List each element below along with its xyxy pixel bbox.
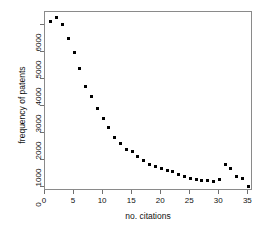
scatter-chart: 05101520253035 0100020003000400050006000… [0,0,268,238]
data-point [224,163,227,166]
x-tick [131,190,132,194]
data-point [119,142,122,145]
data-point [67,37,70,40]
data-point [235,175,238,178]
data-point [131,150,134,153]
data-point [102,117,105,120]
data-point [49,20,52,23]
y-tick-label: 6000 [34,24,43,62]
data-point [177,173,180,176]
data-point [90,95,93,98]
data-point [113,136,116,139]
data-point [200,179,203,182]
x-tick [44,190,45,194]
data-point [218,178,221,181]
x-tick-label: 5 [59,196,87,205]
x-tick [218,190,219,194]
x-tick-label: 10 [88,196,116,205]
x-tick-label: 30 [204,196,232,205]
x-tick [73,190,74,194]
x-tick-label: 35 [233,196,261,205]
data-point [96,107,99,110]
plot-area [45,12,251,189]
x-tick [160,190,161,194]
plot-frame [44,11,252,190]
data-point [171,170,174,173]
data-point [78,67,81,70]
x-tick-label: 20 [146,196,174,205]
data-point [189,177,192,180]
x-axis-title: no. citations [44,211,252,221]
data-point [136,155,139,158]
x-tick-label: 15 [117,196,145,205]
data-point [241,177,244,180]
data-point [183,175,186,178]
data-point [154,165,157,168]
data-point [247,185,250,188]
data-point [107,126,110,129]
data-point [148,163,151,166]
data-point [160,167,163,170]
data-point [142,159,145,162]
y-axis-title: frequency of patents [17,30,27,180]
x-tick [102,190,103,194]
x-tick [189,190,190,194]
data-point [166,169,169,172]
data-point [229,167,232,170]
data-point [55,16,58,19]
x-tick-label: 25 [175,196,203,205]
data-point [84,85,87,88]
x-tick [247,190,248,194]
data-point [61,23,64,26]
data-point [73,51,76,54]
data-point [125,148,128,151]
data-point [195,178,198,181]
data-point [212,180,215,183]
data-point [206,179,209,182]
